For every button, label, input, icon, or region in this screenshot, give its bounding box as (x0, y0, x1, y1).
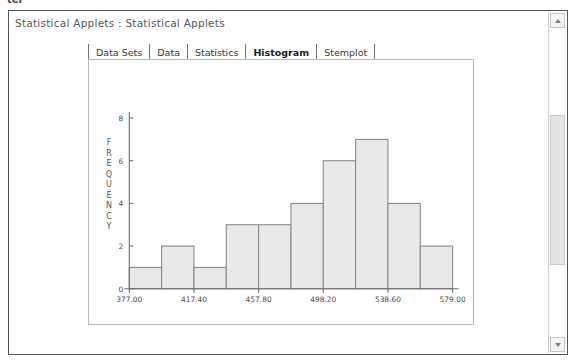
clipped-text-artifact: ter (7, 0, 29, 3)
chevron-down-icon[interactable] (550, 337, 565, 352)
x-axis-tick-label: 377.00 (116, 295, 142, 304)
histogram-bar (388, 203, 420, 288)
vertical-scrollbar[interactable] (548, 12, 566, 353)
chevron-up-icon[interactable] (550, 13, 565, 28)
x-axis-tick-label: 498.20 (310, 295, 336, 304)
histogram-bar (129, 267, 161, 288)
histogram-bar (259, 225, 291, 289)
histogram-bar (420, 246, 452, 289)
scrollbar-thumb[interactable] (550, 115, 565, 265)
y-axis-tick-label: 0 (119, 285, 124, 294)
x-axis-tick-label: 417.40 (181, 295, 207, 304)
chevron-up-glyph (555, 19, 561, 23)
histogram-bar (291, 203, 323, 288)
histogram-bar (356, 139, 388, 288)
histogram-bar (162, 246, 194, 289)
y-axis-tick-label: 2 (119, 242, 124, 251)
histogram-bar (226, 225, 258, 289)
chevron-down-glyph (555, 343, 561, 347)
y-axis-tick-label: 6 (119, 157, 124, 166)
chart-panel: FREQUENCY 02468377.00417.40457.80498.205… (88, 59, 474, 325)
histogram-bar (323, 161, 355, 289)
x-axis-tick-label: 538.60 (375, 295, 401, 304)
app-window: Statistical Applets : Statistical Applet… (8, 10, 568, 355)
page-title: Statistical Applets : Statistical Applet… (15, 17, 225, 29)
histogram-chart: 02468377.00417.40457.80498.20538.60579.0… (89, 60, 473, 324)
y-axis-tick-label: 4 (119, 199, 124, 208)
x-axis-tick-label: 457.80 (246, 295, 272, 304)
y-axis-tick-label: 8 (119, 114, 124, 123)
histogram-bar (194, 267, 226, 288)
x-axis-tick-label: 579.00 (440, 295, 466, 304)
